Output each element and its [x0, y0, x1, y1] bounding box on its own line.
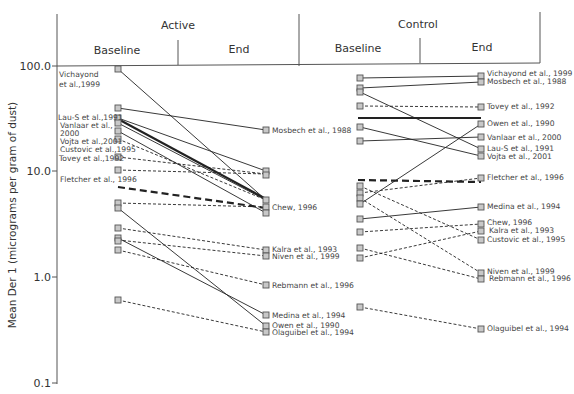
ctrl-label-olaguibel: Olaguibel et al., 1994 [487, 324, 569, 333]
label-tovey: Tovey et al.,1992 [58, 154, 124, 163]
col-label-control-end: End [472, 41, 493, 54]
control-end-markers [478, 73, 484, 332]
active-series [118, 69, 266, 332]
label-vichayond-year: et al.,1999 [59, 80, 100, 89]
active-end-labels: Mosbech et al., 1988 Chew, 1996 Kalra et… [272, 126, 354, 337]
active-end-markers [263, 127, 269, 335]
ctrl-label-vojta: Vojta et al., 2001 [487, 152, 552, 161]
control-end-labels: Vichayond et al., 1999 Mosbech et al., 1… [486, 69, 573, 333]
label-fletcher: Fletcher et al., 1996 [60, 175, 137, 184]
ctrl-label-owen: Owen et al., 1990 [487, 119, 555, 128]
y-axis-label: Mean Der 1 (micrograms per gram of dust) [6, 102, 18, 328]
col-label-control-baseline: Baseline [335, 42, 382, 55]
column-header: Active Control Baseline End Baseline End [57, 12, 540, 66]
label-medina: Medina et al., 1994 [272, 311, 346, 320]
y-tick-1: 1.0 [34, 271, 52, 284]
col-label-active-end: End [229, 43, 250, 56]
ctrl-label-kalra: Kalra et al., 1993 [489, 226, 554, 235]
y-tick-10: 10.0 [27, 165, 52, 178]
ctrl-label-fletcher: Fletcher et al., 1996 [487, 173, 564, 182]
group-label-control: Control [398, 18, 438, 31]
active-baseline-markers [115, 66, 121, 303]
ctrl-label-medina: Medina et al., 1994 [487, 202, 561, 211]
group-label-active: Active [161, 19, 195, 32]
ctrl-label-custovic: Custovic et al., 1995 [487, 235, 565, 244]
y-tick-0-1: 0.1 [34, 377, 52, 390]
der1-slopegraph: Active Control Baseline End Baseline End… [0, 0, 574, 394]
ctrl-label-tovey: Tovey et al., 1992 [486, 102, 555, 111]
label-mosbech: Mosbech et al., 1988 [272, 126, 352, 135]
label-vichayond: Vichayond [59, 70, 99, 79]
ctrl-label-mosbech: Mosbech et al., 1988 [487, 77, 567, 86]
ctrl-label-rebmann: Rebmann et al., 1996 [489, 274, 571, 283]
y-tick-100: 100.0 [20, 60, 52, 73]
y-axis: 100.0 10.0 1.0 0.1 Mean Der 1 (microgram… [6, 60, 57, 390]
ctrl-label-vanlaar: Vanlaar et al., 2000 [487, 133, 562, 142]
label-rebmann: Rebmann et al., 1996 [272, 281, 354, 290]
label-olaguibel: Olaguibel et al., 1994 [272, 328, 354, 337]
control-series [358, 76, 481, 329]
label-chew: Chew, 1996 [272, 203, 317, 212]
control-baseline-markers [357, 75, 363, 310]
label-niven: Niven et al., 1999 [272, 252, 340, 261]
label-custovic: Custovic et al.,1995 [60, 145, 136, 154]
col-label-active-baseline: Baseline [94, 44, 141, 57]
